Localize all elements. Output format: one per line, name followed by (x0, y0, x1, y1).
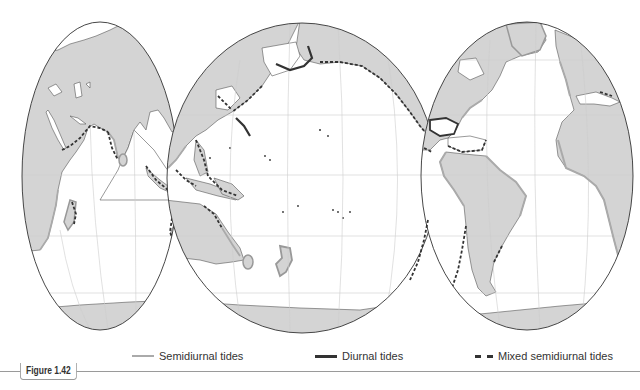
legend-item-mixed: Mixed semidiurnal tides (475, 348, 613, 364)
semidiurnal-line-swatch-icon (132, 355, 154, 357)
legend-label-diurnal: Diurnal tides (342, 350, 403, 362)
legend-item-diurnal: Diurnal tides (315, 348, 403, 364)
land-antarctica (20, 300, 180, 345)
legend-label-mixed: Mixed semidiurnal tides (498, 350, 613, 362)
legend-item-semidiurnal: Semidiurnal tides (132, 348, 243, 364)
lobe-pacific-ocean (165, 20, 440, 345)
diurnal-line-swatch-icon (315, 355, 337, 358)
legend-label-semidiurnal: Semidiurnal tides (159, 350, 243, 362)
mixed-dashed-line-swatch-icon (475, 355, 493, 358)
figure-label: Figure 1.42 (20, 363, 77, 380)
figure-divider (0, 371, 640, 372)
lobe-atlantic-ocean (415, 20, 640, 345)
lobe-indian-ocean (20, 20, 180, 345)
world-tide-map (0, 0, 640, 345)
